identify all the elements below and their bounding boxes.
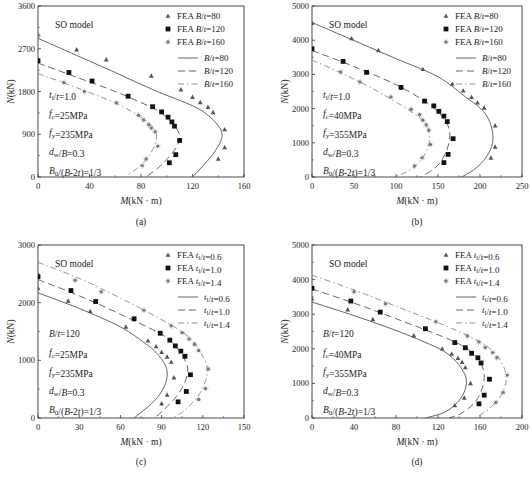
square-marker: [431, 103, 436, 108]
x-tick-label: 150: [238, 422, 251, 432]
triangle-marker: [345, 307, 350, 311]
triangle-marker: [371, 317, 376, 321]
parameter-annotation: fy=355MPa: [323, 367, 367, 379]
square-marker: [166, 27, 171, 32]
square-marker: [177, 138, 182, 143]
square-marker: [90, 79, 95, 84]
triangle-marker: [475, 100, 480, 104]
star-marker: [477, 340, 480, 343]
legend: FEA tl/t=0.6FEA tl/t=1.0FEA tl/t=1.4tl/t…: [165, 250, 230, 330]
x-tick-label: 200: [474, 181, 487, 191]
triangle-marker: [149, 73, 154, 77]
star-marker: [187, 337, 190, 340]
star-marker: [197, 349, 200, 352]
x-tick-label: 100: [390, 181, 403, 191]
star-marker: [83, 90, 86, 93]
parameter-annotation: B/t=120: [49, 329, 80, 339]
triangle-marker: [460, 360, 465, 364]
star-marker: [156, 144, 159, 147]
legend-entry: FEA tl/t=0.6: [177, 250, 222, 262]
legend-entry: FEA tl/t=1.0: [177, 263, 222, 275]
y-tick-label: 1000: [292, 138, 309, 148]
parameter-annotation: fc=40MPa: [323, 348, 362, 360]
legend-entry: tl/t=0.6: [204, 292, 230, 304]
square-marker: [167, 160, 172, 165]
legend: FEA B/t=80FEA B/t=120FEA B/t=160B/t=80B/…: [443, 11, 511, 89]
square-marker: [341, 59, 346, 64]
y-tick-label: 1800: [18, 87, 35, 97]
star-marker: [166, 40, 169, 43]
square-marker: [183, 354, 188, 359]
x-tick-label: 160: [238, 181, 251, 191]
star-marker: [99, 290, 102, 293]
parameter-annotation: B0/(B-2t)=1/3: [49, 405, 101, 418]
parameter-annotation: dw/B=0.3: [323, 386, 359, 398]
star-marker: [141, 164, 144, 167]
star-marker: [409, 108, 412, 111]
parameter-annotation: tl/t=1.0: [323, 90, 350, 102]
legend-entry: B/t=80: [204, 53, 229, 63]
plot-title: SO model: [329, 20, 368, 30]
square-marker: [477, 401, 482, 406]
x-tick-label: 80: [392, 422, 401, 432]
star-marker: [389, 95, 392, 98]
panel-caption: (b): [411, 217, 422, 228]
fea-points: [72, 278, 210, 403]
triangle-marker: [440, 346, 445, 350]
star-marker: [495, 356, 498, 359]
triangle-marker: [469, 95, 474, 99]
legend-entry: FEA B/t=80: [177, 11, 221, 21]
star-marker: [197, 398, 200, 401]
star-marker: [115, 101, 118, 104]
star-marker: [425, 123, 428, 126]
star-marker: [444, 279, 447, 282]
y-tick-label: 5000: [292, 240, 309, 250]
fea-points: [36, 274, 193, 404]
parameter-annotation: B0/(B-2t)=1/3: [49, 166, 101, 179]
y-axis-label: N(kN): [280, 319, 291, 344]
triangle-marker: [463, 365, 468, 369]
parameter-annotation: dw/B=0.3: [49, 147, 85, 159]
square-marker: [126, 94, 131, 99]
y-axis-label: N(kN): [6, 319, 17, 344]
square-marker: [184, 389, 189, 394]
triangle-marker: [444, 13, 449, 17]
triangle-marker: [211, 110, 216, 114]
chart-panel-b: 050100150200250010002000300040005000M(kN…: [280, 1, 528, 228]
y-tick-label: 4000: [292, 275, 309, 285]
panel-caption: (c): [136, 457, 147, 468]
y-tick-label: 2700: [18, 44, 35, 54]
x-tick-label: 80: [137, 181, 146, 191]
star-marker: [181, 331, 184, 334]
square-marker: [310, 286, 315, 291]
y-tick-label: 3000: [292, 309, 309, 319]
triangle-marker: [411, 333, 416, 337]
square-marker: [364, 70, 369, 75]
x-axis-label: M(kN · m): [395, 196, 437, 207]
square-marker: [178, 349, 183, 354]
legend-entry: FEA tl/t=1.4: [455, 276, 500, 288]
chart-panel-a: 040801201600900180027003600M(kN · m)N(kN…: [6, 1, 250, 228]
star-marker: [142, 308, 145, 311]
triangle-marker: [198, 100, 203, 104]
square-marker: [166, 115, 171, 120]
square-marker: [150, 104, 155, 109]
star-marker: [358, 80, 361, 83]
star-marker: [434, 320, 437, 323]
star-marker: [207, 367, 210, 370]
y-tick-label: 1000: [18, 355, 35, 365]
triangle-marker: [216, 156, 221, 160]
parameter-annotation: fc=25MPa: [49, 348, 88, 360]
legend-entry: FEA B/t=80: [455, 11, 499, 21]
triangle-marker: [88, 309, 93, 313]
y-tick-label: 0: [305, 172, 309, 182]
triangle-marker: [444, 252, 449, 256]
x-axis-label: M(kN · m): [395, 437, 437, 448]
square-marker: [444, 27, 449, 32]
square-marker: [159, 110, 164, 115]
plot-title: SO model: [55, 259, 94, 269]
star-marker: [62, 81, 65, 84]
star-marker: [384, 302, 387, 305]
star-marker: [153, 130, 156, 133]
triangle-marker: [74, 47, 79, 51]
